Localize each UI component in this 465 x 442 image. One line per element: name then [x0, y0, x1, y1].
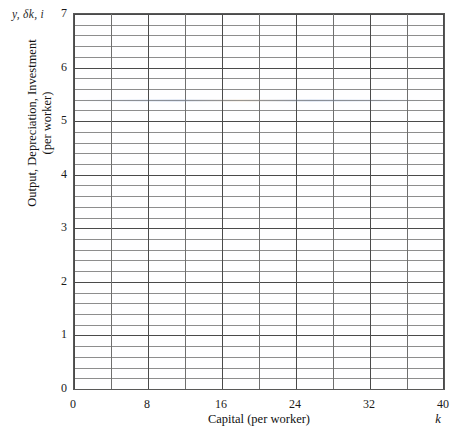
y-tick-label: 1: [45, 328, 67, 340]
y-tick-label: 0: [45, 382, 67, 394]
solow-model-grid-figure: y, δk, i 01234567 0816243240 Output, Dep…: [0, 0, 465, 442]
vertical-gridline: [333, 14, 334, 389]
vertical-gridline: [222, 14, 223, 389]
vertical-gridline: [407, 14, 408, 389]
plot-area: [73, 13, 445, 390]
x-axis-title: Capital (per worker): [73, 412, 445, 427]
x-axis-variable-label: k: [425, 412, 451, 427]
x-tick-label: 0: [53, 398, 93, 410]
x-tick-label: 24: [275, 398, 315, 410]
vertical-gridline: [296, 14, 297, 389]
vertical-gridline: [148, 14, 149, 389]
y-axis-title-line2: (per worker): [40, 3, 55, 243]
vertical-gridline: [443, 14, 444, 389]
y-axis-title-line1: Output, Depreciation, Investment: [25, 39, 39, 206]
x-tick-label: 40: [423, 398, 463, 410]
vertical-gridline: [111, 14, 112, 389]
x-tick-label: 8: [127, 398, 167, 410]
y-tick-label: 2: [45, 275, 67, 287]
x-tick-label: 32: [349, 398, 389, 410]
vertical-gridline: [370, 14, 371, 389]
horizontal-gridline: [74, 389, 444, 390]
vertical-gridline: [185, 14, 186, 389]
vertical-gridline: [259, 14, 260, 389]
x-tick-label: 16: [201, 398, 241, 410]
y-axis-title: Output, Depreciation, Investment (per wo…: [25, 3, 55, 243]
vertical-gridline: [74, 14, 75, 389]
